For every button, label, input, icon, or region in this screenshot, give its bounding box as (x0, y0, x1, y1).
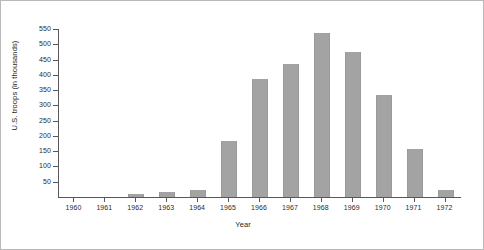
bar (221, 141, 237, 197)
y-axis-tick-label: 250 (5, 117, 51, 124)
bar (252, 79, 268, 197)
y-axis-tick-label: 200 (5, 132, 51, 139)
y-axis-tick-label-wrap: 100 (1, 162, 51, 170)
x-axis-tick (383, 198, 384, 202)
y-axis-tick-label-wrap: 200 (1, 132, 51, 140)
x-axis-tick (259, 198, 260, 202)
bars-container (58, 29, 460, 197)
y-axis-tick-label: 500 (5, 40, 51, 47)
x-axis-tick (445, 198, 446, 202)
x-axis-tick (73, 198, 74, 202)
y-axis-tick-label-wrap: 350 (1, 86, 51, 94)
x-axis-tick (104, 198, 105, 202)
y-axis-tick-label: 300 (5, 101, 51, 108)
bar (190, 190, 206, 197)
y-axis-tick-label: 350 (5, 86, 51, 93)
x-axis-tick (135, 198, 136, 202)
bar (438, 190, 454, 197)
x-axis-tick-label: 1972 (425, 204, 465, 211)
x-axis-title: Year (1, 220, 484, 229)
y-axis-tick-label: 450 (5, 56, 51, 63)
x-axis-tick (414, 198, 415, 202)
y-axis-tick-label-wrap: 300 (1, 101, 51, 109)
bar (128, 194, 144, 197)
chart-figure: U.S. troops (in thousands) 5010015020025… (0, 0, 484, 250)
y-axis-tick-label-wrap: 400 (1, 71, 51, 79)
bar (407, 149, 423, 197)
y-axis-tick-label-wrap: 50 (1, 178, 51, 186)
x-axis-tick (228, 198, 229, 202)
y-axis-tick-label: 400 (5, 71, 51, 78)
x-axis-tick (197, 198, 198, 202)
y-axis-tick-label-wrap: 500 (1, 40, 51, 48)
y-axis-tick-label-wrap: 550 (1, 25, 51, 33)
y-axis-tick-label-wrap: 450 (1, 56, 51, 64)
x-axis-tick (290, 198, 291, 202)
y-axis-tick-label: 150 (5, 147, 51, 154)
bar (376, 95, 392, 197)
bar (345, 52, 361, 197)
bar (283, 64, 299, 197)
y-axis-tick-label: 50 (5, 178, 51, 185)
y-axis-tick-label-wrap: 250 (1, 117, 51, 125)
y-axis-tick-label: 100 (5, 162, 51, 169)
bar (314, 33, 330, 197)
bar (159, 192, 175, 197)
y-axis-tick-label: 550 (5, 25, 51, 32)
x-axis-tick (352, 198, 353, 202)
x-axis-tick (321, 198, 322, 202)
x-axis-tick (166, 198, 167, 202)
y-axis-tick-label-wrap: 150 (1, 147, 51, 155)
